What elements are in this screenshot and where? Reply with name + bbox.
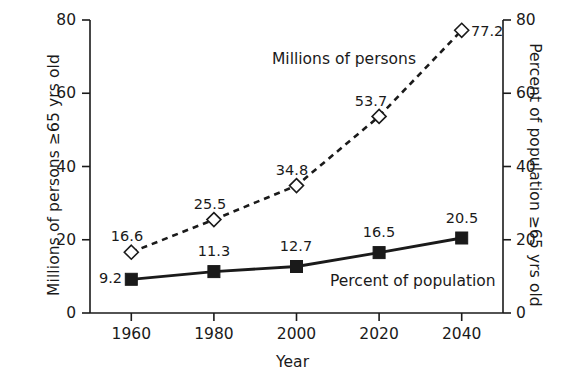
x-axis-tick-1980: 1980 <box>184 325 244 343</box>
y-axis-right-tick-80: 80 <box>516 11 556 29</box>
chart-figure: Millions of persons ≥65 yrs old Percent … <box>0 0 585 387</box>
x-axis-ticks <box>131 313 461 321</box>
data-label-millions-2020: 53.7 <box>349 93 393 109</box>
x-axis-tick-2000: 2000 <box>267 325 327 343</box>
y-axis-right-tick-60: 60 <box>516 84 556 102</box>
data-label-percent-2000: 12.7 <box>274 238 318 254</box>
y-axis-right-tick-0: 0 <box>516 304 556 322</box>
data-label-percent-2040: 20.5 <box>440 210 484 226</box>
x-axis-tick-1960: 1960 <box>101 325 161 343</box>
y-axis-left-tick-40: 40 <box>36 158 76 176</box>
y-axis-left-tick-20: 20 <box>36 231 76 249</box>
y-axis-left-tick-80: 80 <box>36 11 76 29</box>
data-label-millions-2040: 77.2 <box>471 23 515 39</box>
data-label-millions-2000: 34.8 <box>270 162 314 178</box>
data-label-millions-1980: 25.5 <box>188 196 232 212</box>
data-label-percent-1980: 11.3 <box>192 243 236 259</box>
data-label-millions-1960: 16.6 <box>105 228 149 244</box>
y-axis-left-tick-0: 0 <box>36 304 76 322</box>
series-annotation-millions: Millions of persons <box>272 50 416 68</box>
right-axis-ticks <box>503 20 511 313</box>
x-axis-tick-2040: 2040 <box>432 325 492 343</box>
y-axis-right-tick-40: 40 <box>516 158 556 176</box>
series-annotation-percent: Percent of population <box>330 272 496 290</box>
x-axis-title: Year <box>0 353 585 371</box>
data-label-percent-2020: 16.5 <box>357 224 401 240</box>
x-axis-tick-2020: 2020 <box>349 325 409 343</box>
y-axis-left-tick-60: 60 <box>36 84 76 102</box>
data-label-percent-1960: 9.2 <box>78 270 122 286</box>
y-axis-right-tick-20: 20 <box>516 231 556 249</box>
